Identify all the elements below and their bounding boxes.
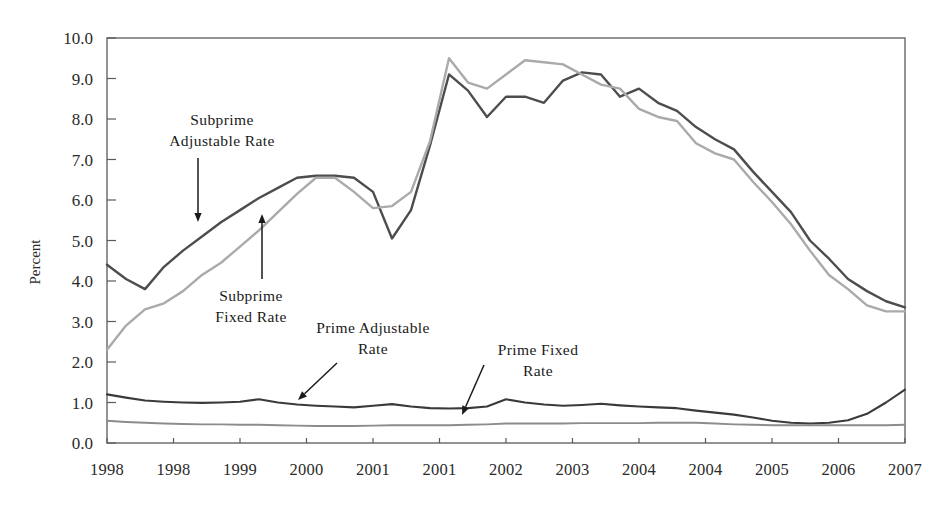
x-tick-label: 2007 — [888, 460, 922, 479]
annotation-prime-fixed: Prime FixedRate — [462, 341, 578, 415]
y-tick-label: 7.0 — [72, 151, 93, 170]
annotation-label: Rate — [358, 340, 388, 357]
y-tick-label: 2.0 — [72, 353, 93, 372]
x-tick-label: 2005 — [755, 460, 789, 479]
plot-frame — [107, 38, 905, 443]
chart-container: 0.01.02.03.04.05.06.07.08.09.010.0 19981… — [0, 0, 937, 507]
y-tick-label: 0.0 — [72, 434, 93, 453]
y-tick-label: 5.0 — [72, 232, 93, 251]
series-line-subprime-adjustable-rate: Subprime Adjustable Rate — [107, 72, 905, 307]
annotation-arrow-shaft — [305, 363, 337, 394]
annotation-label: Adjustable Rate — [169, 132, 274, 149]
annotation-subprime-adjustable: SubprimeAdjustable Rate — [169, 111, 274, 222]
x-tick-label: 1999 — [223, 460, 257, 479]
x-tick-label: 2006 — [821, 460, 855, 479]
y-tick-label: 9.0 — [72, 70, 93, 89]
x-axis-tick-group: 1998199819992000200120012002200320042004… — [90, 438, 922, 479]
annotation-arrow-head — [462, 405, 469, 415]
y-tick-label: 1.0 — [72, 394, 93, 413]
y-tick-label: 8.0 — [72, 110, 93, 129]
annotation-label: Prime Adjustable — [316, 319, 430, 336]
y-axis-title: Percent — [27, 239, 43, 285]
x-tick-label: 2000 — [289, 460, 323, 479]
y-tick-label: 10.0 — [63, 29, 93, 48]
y-axis-tick-group: 0.01.02.03.04.05.06.07.08.09.010.0 — [63, 29, 116, 453]
annotation-group: SubprimeAdjustable RateSubprimeFixed Rat… — [169, 111, 578, 415]
annotation-label: Subprime — [219, 287, 282, 304]
annotation-arrow-shaft — [466, 365, 484, 407]
annotation-label: Subprime — [190, 111, 253, 128]
line-chart-svg: 0.01.02.03.04.05.06.07.08.09.010.0 19981… — [0, 0, 937, 507]
series-line-prime-adjustable-rate: Prime Adjustable Rate — [107, 390, 905, 424]
y-tick-label: 6.0 — [72, 191, 93, 210]
y-tick-label: 4.0 — [72, 272, 93, 291]
x-tick-label: 2003 — [555, 460, 589, 479]
series-line-subprime-fixed-rate: Subprime Fixed Rate — [107, 58, 905, 350]
annotation-prime-adjustable: Prime AdjustableRate — [298, 319, 430, 400]
annotation-subprime-fixed: SubprimeFixed Rate — [215, 214, 287, 325]
x-tick-label: 2001 — [356, 460, 390, 479]
x-tick-label: 2004 — [622, 460, 656, 479]
x-tick-label: 1998 — [90, 460, 124, 479]
annotation-label: Fixed Rate — [215, 308, 287, 325]
y-tick-label: 3.0 — [72, 313, 93, 332]
annotation-arrow-head — [194, 213, 201, 222]
annotation-arrow-head — [258, 214, 265, 223]
annotation-label: Prime Fixed — [498, 341, 579, 358]
x-tick-label: 2002 — [489, 460, 523, 479]
x-tick-label: 1998 — [156, 460, 190, 479]
annotation-label: Rate — [523, 362, 553, 379]
x-tick-label: 2004 — [688, 460, 722, 479]
x-tick-label: 2001 — [422, 460, 456, 479]
